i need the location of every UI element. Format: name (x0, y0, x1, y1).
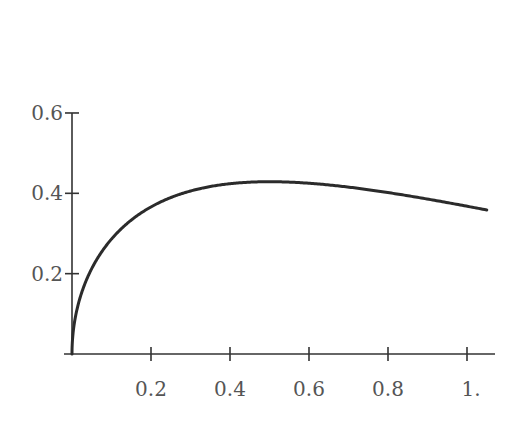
data-curve (72, 182, 487, 354)
y-tick-label: 0.4 (31, 181, 63, 205)
x-tick-label: 0.8 (372, 377, 404, 401)
x-ticks: 0.20.40.60.81. (135, 347, 480, 401)
x-tick-label: 1. (461, 377, 480, 401)
x-tick-label: 0.2 (135, 377, 167, 401)
y-tick-label: 0.2 (31, 262, 63, 286)
x-tick-label: 0.4 (214, 377, 246, 401)
axes (64, 113, 495, 354)
x-tick-label: 0.6 (293, 377, 325, 401)
line-chart: 0.20.40.6 0.20.40.60.81. (0, 0, 525, 423)
y-tick-label: 0.6 (31, 101, 63, 125)
